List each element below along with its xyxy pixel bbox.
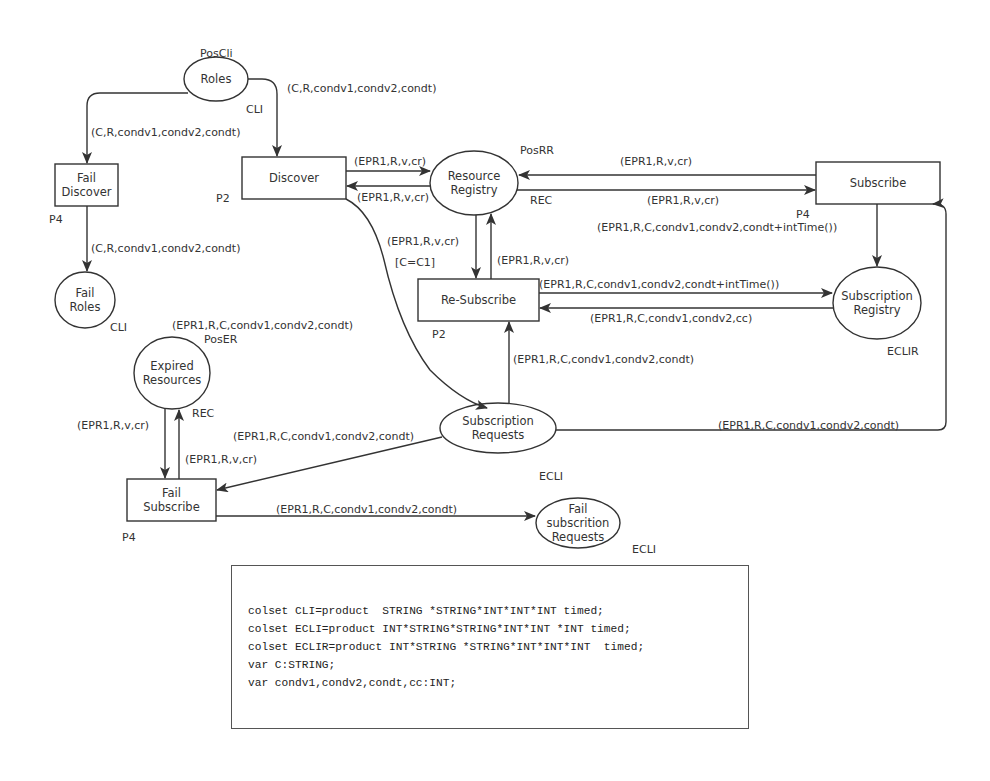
transition-fail-discover-label: Fail Discover: [55, 169, 118, 201]
arc-label-rr-to-resubscribe: (EPR1,R,v,cr): [387, 235, 459, 248]
place-sreg-line1: Subscription: [841, 289, 912, 303]
sreg-colorset-label: ECLIR: [887, 345, 919, 358]
arc-label-fail-subscribe-to-er: (EPR1,R,v,cr): [185, 453, 257, 466]
fsr-colorset-label: ECLI: [632, 543, 656, 556]
re-subscribe-priority: P2: [432, 328, 446, 341]
arc-label-fail-subscribe-to-fsr: (EPR1,R,C,condv1,condv2,condt): [276, 503, 457, 516]
subscribe-priority: P4: [796, 208, 810, 221]
er-position-label: PosER: [204, 333, 237, 346]
rr-position-label: PosRR: [520, 144, 554, 157]
rr-colorset-label: REC: [530, 194, 552, 207]
arc-label-rr-to-subscribe: (EPR1,R,v,cr): [647, 194, 719, 207]
arc-label-sreq-to-resubscribe: (EPR1,R,C,condv1,condv2,condt): [513, 353, 694, 366]
arc-label-roles-to-discover: (C,R,condv1,condv2,condt): [287, 82, 436, 95]
place-expired-resources-label: Expired Resources: [134, 357, 210, 389]
place-rr-line2: Registry: [450, 183, 497, 197]
petri-net-diagram: Roles Fail Roles Resource Registry Subsc…: [0, 0, 990, 781]
place-fail-roles-line1: Fail: [76, 286, 95, 300]
fail-roles-colorset-label: CLI: [110, 321, 127, 334]
arc-label-discover-to-sreq: (EPR1,R,C,condv1,condv2,condt): [172, 319, 353, 332]
transition-subscribe-label: Subscribe: [816, 175, 940, 191]
place-sreq-line2: Requests: [472, 428, 525, 442]
arc-label-sreq-to-fail-subscribe: (EPR1,R,C,condv1,condv2,condt): [233, 430, 414, 443]
arc-label-sreq-to-subscribe: (EPR1,R,C,condv1,condv2,condt): [718, 419, 899, 432]
place-er-line1: Expired: [150, 359, 193, 373]
place-subscription-registry-label: Subscription Registry: [833, 287, 921, 319]
arc-label-resubscribe-to-sreg: (EPR1,R,C,condv1,condv2,condt+intTime()): [539, 278, 779, 291]
fail-subscribe-priority: P4: [122, 531, 136, 544]
er-colorset-label: REC: [192, 407, 214, 420]
declaration-line: colset CLI=product STRING *STRING*INT*IN…: [248, 604, 604, 618]
transition-re-subscribe-label: Re-Subscribe: [418, 292, 539, 308]
arc-roles-to-discover: [248, 79, 277, 156]
discover-priority: P2: [216, 192, 230, 205]
arc-label-er-to-fail-subscribe: (EPR1,R,v,cr): [77, 419, 149, 432]
roles-colorset-label: CLI: [246, 103, 263, 116]
arc-label-resubscribe-to-rr: (EPR1,R,v,cr): [497, 254, 569, 267]
arc-label-rr-to-discover: (EPR1,R,v,cr): [357, 191, 429, 204]
declaration-line: colset ECLIR=product INT*STRING *STRING*…: [248, 640, 644, 654]
transition-discover-label: Discover: [242, 170, 346, 186]
transition-fs-line1: Fail: [162, 486, 181, 500]
arc-label-sreg-to-resubscribe: (EPR1,R,C,condv1,condv2,cc): [590, 312, 752, 325]
place-er-line2: Resources: [143, 373, 202, 387]
place-resource-registry-label: Resource Registry: [430, 167, 518, 199]
transition-fs-line2: Subscribe: [143, 500, 200, 514]
place-fsr-line3: Requests: [552, 530, 605, 544]
place-subscription-requests-label: Subscription Requests: [440, 412, 556, 444]
place-sreq-line1: Subscription: [462, 414, 533, 428]
sreq-colorset-label: ECLI: [539, 470, 563, 483]
fail-discover-priority: P4: [49, 213, 63, 226]
arc-label-subscribe-to-rr: (EPR1,R,v,cr): [620, 155, 692, 168]
declaration-line: var C:STRING;: [248, 658, 335, 672]
declaration-line: colset ECLI=product INT*STRING*STRING*IN…: [248, 622, 631, 636]
transition-fd-line1: Fail: [77, 171, 96, 185]
arc-label-roles-to-fail-discover: (C,R,condv1,condv2,condt): [91, 126, 240, 139]
place-fail-roles-label: Fail Roles: [55, 284, 115, 316]
transition-fail-subscribe-label: Fail Subscribe: [127, 484, 216, 516]
place-roles-label: Roles: [184, 71, 248, 87]
place-fsr-line2: subscrition: [547, 516, 610, 530]
arc-label-fail-discover-to-fail-roles: (C,R,condv1,condv2,condt): [91, 242, 240, 255]
arc-label-discover-to-rr: (EPR1,R,v,cr): [354, 155, 426, 168]
transition-fd-line2: Discover: [61, 185, 111, 199]
place-fail-roles-line2: Roles: [70, 300, 101, 314]
re-subscribe-guard: [C=C1]: [395, 256, 435, 269]
place-sreg-line2: Registry: [853, 303, 900, 317]
arc-label-subscribe-to-sreg: (EPR1,R,C,condv1,condv2,condt+intTime()): [597, 221, 837, 234]
place-rr-line1: Resource: [448, 169, 501, 183]
declaration-line: var condv1,condv2,condt,cc:INT;: [248, 676, 456, 690]
roles-position-label: PosCli: [200, 47, 233, 60]
place-fail-subscription-requests-label: Fail subscrition Requests: [536, 500, 620, 546]
place-fsr-line1: Fail: [569, 502, 588, 516]
